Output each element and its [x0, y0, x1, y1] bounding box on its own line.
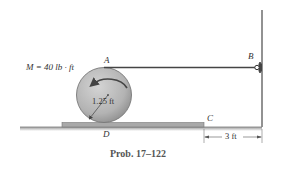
disk: [77, 68, 132, 123]
label-point-c: C: [207, 113, 213, 123]
moment-label: M = 40 lb · ft: [26, 62, 74, 72]
diagram-canvas: A B C D M = 40 lb · ft 1.25 ft 3 ft Prob…: [0, 0, 281, 171]
figure-caption: Prob. 17–122: [110, 148, 166, 159]
distance-label: 3 ft: [225, 131, 237, 141]
dim-arrow-right-icon: [257, 136, 262, 139]
label-point-a: A: [104, 55, 110, 65]
dim-arrow-left-icon: [204, 136, 209, 139]
pin-support-b: [255, 62, 262, 73]
diagram-svg: [0, 0, 281, 171]
label-point-d: D: [103, 129, 110, 139]
plank: [62, 123, 204, 128]
label-point-b: B: [248, 51, 254, 61]
radius-label: 1.25 ft: [92, 96, 114, 106]
